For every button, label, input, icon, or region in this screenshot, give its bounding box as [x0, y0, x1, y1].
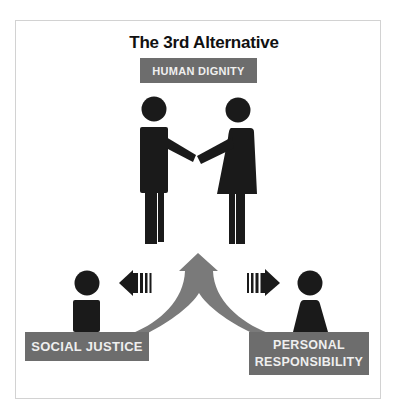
personal-responsibility-line2: RESPONSIBILITY	[255, 354, 363, 371]
personal-responsibility-label: PERSONAL RESPONSIBILITY	[249, 332, 369, 375]
human-dignity-text: HUMAN DIGNITY	[152, 65, 245, 77]
striped-arrow-right-icon	[247, 269, 280, 296]
social-justice-text: SOCIAL JUSTICE	[31, 339, 143, 354]
man-figure-icon	[140, 97, 196, 245]
woman-figure-icon	[197, 98, 257, 245]
social-justice-person-icon	[73, 271, 100, 333]
personal-responsibility-line1: PERSONAL	[273, 337, 345, 354]
social-justice-label: SOCIAL JUSTICE	[25, 332, 149, 361]
human-dignity-label: HUMAN DIGNITY	[140, 58, 257, 83]
striped-arrow-left-icon	[119, 270, 152, 296]
personal-responsibility-person-icon	[293, 271, 328, 333]
